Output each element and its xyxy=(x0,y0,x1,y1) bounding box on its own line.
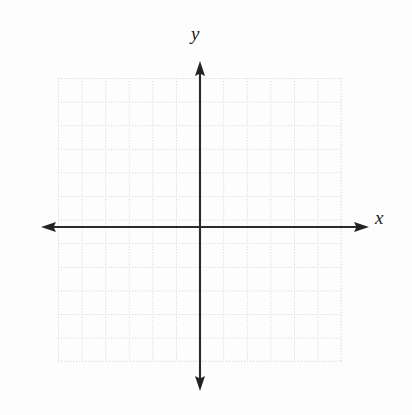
x-axis-label: x xyxy=(375,208,383,227)
coordinate-plane-canvas xyxy=(0,0,412,415)
coordinate-plane-figure: y x xyxy=(0,0,412,415)
y-axis-label: y xyxy=(191,24,199,43)
